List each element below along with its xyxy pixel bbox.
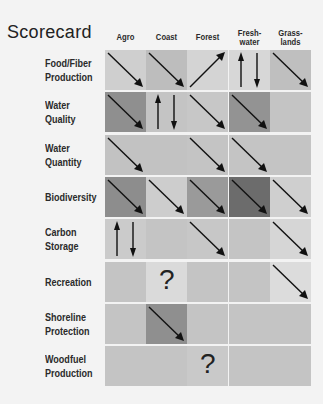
- arrow-down-icon: [270, 219, 311, 259]
- arrow-down-icon: [187, 92, 228, 132]
- score-cell: [229, 50, 270, 90]
- score-cell: [105, 177, 146, 217]
- score-cell: [105, 346, 146, 386]
- score-cell: [146, 219, 187, 259]
- score-cell: [229, 92, 270, 132]
- score-cell: [229, 262, 270, 302]
- arrow-down-icon: [105, 177, 146, 217]
- score-cell: [187, 219, 228, 259]
- score-cell: [105, 135, 146, 175]
- score-cell: [105, 262, 146, 302]
- score-cell: [187, 50, 228, 90]
- score-cell: [187, 92, 228, 132]
- arrow-down-icon: [105, 135, 146, 175]
- score-cell: [187, 262, 228, 302]
- arrow-down-icon: [146, 304, 187, 344]
- arrow-down-icon: [270, 177, 311, 217]
- score-cell: [146, 92, 187, 132]
- column-header: Grass-lands: [273, 29, 308, 47]
- score-cell: [187, 177, 228, 217]
- score-cell: [270, 262, 311, 302]
- score-cell: [270, 50, 311, 90]
- arrow-down-icon: [229, 135, 270, 175]
- score-cell: ?: [187, 346, 228, 386]
- score-cell: [270, 177, 311, 217]
- arrow-down-icon: [187, 177, 228, 217]
- row-label: Recreation: [45, 275, 93, 289]
- score-cell: [105, 219, 146, 259]
- arrow-down-icon: [187, 219, 228, 259]
- arrow-up-icon: [187, 50, 228, 90]
- row-label: WoodfuelProduction: [45, 352, 93, 380]
- score-cell: [229, 346, 270, 386]
- row-label: WaterQuantity: [45, 141, 93, 169]
- mixed-arrows-icon: [146, 92, 187, 132]
- row-label: Biodiversity: [45, 190, 93, 204]
- score-cell: [105, 92, 146, 132]
- score-cell: [229, 219, 270, 259]
- arrow-down-icon: [229, 177, 270, 217]
- mixed-arrows-icon: [229, 50, 270, 90]
- score-cell: [146, 50, 187, 90]
- row-label: ShorelineProtection: [45, 310, 93, 338]
- column-header: Agro: [108, 33, 143, 42]
- arrow-down-icon: [146, 177, 187, 217]
- row-label: CarbonStorage: [45, 225, 93, 253]
- arrow-down-icon: [187, 135, 228, 175]
- row-label: WaterQuality: [45, 98, 93, 126]
- score-cell: [146, 177, 187, 217]
- score-cell: [187, 135, 228, 175]
- score-cell: [146, 304, 187, 344]
- arrow-down-icon: [270, 50, 311, 90]
- column-header: Forest: [190, 33, 225, 42]
- arrow-down-icon: [105, 92, 146, 132]
- score-cell: [270, 135, 311, 175]
- score-cell: [105, 304, 146, 344]
- scorecard-title: Scorecard: [7, 22, 92, 43]
- column-header: Coast: [149, 33, 184, 42]
- score-cell: [270, 92, 311, 132]
- score-cell: [187, 304, 228, 344]
- mixed-arrows-icon: [105, 219, 146, 259]
- question-mark-icon: ?: [146, 264, 187, 296]
- score-cell: [146, 346, 187, 386]
- score-cell: [270, 346, 311, 386]
- question-mark-icon: ?: [187, 348, 228, 380]
- score-cell: [146, 135, 187, 175]
- score-cell: [270, 304, 311, 344]
- score-cell: [105, 50, 146, 90]
- arrow-down-icon: [105, 50, 146, 90]
- score-cell: [229, 304, 270, 344]
- row-label: Food/FiberProduction: [45, 56, 93, 84]
- column-header: Fresh-water: [232, 29, 267, 47]
- arrow-down-icon: [229, 92, 270, 132]
- score-cell: [270, 219, 311, 259]
- score-cell: ?: [146, 262, 187, 302]
- arrow-down-icon: [270, 262, 311, 302]
- score-cell: [229, 135, 270, 175]
- score-cell: [229, 177, 270, 217]
- arrow-down-icon: [146, 50, 187, 90]
